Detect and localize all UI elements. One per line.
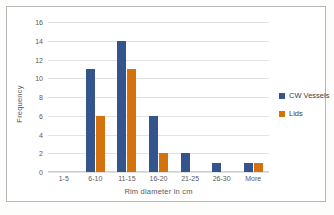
legend-color-swatch bbox=[279, 111, 285, 117]
gridline bbox=[48, 172, 269, 173]
y-axis-tick-label: 6 bbox=[39, 112, 43, 119]
x-axis-tick-label: More bbox=[237, 175, 269, 182]
bar-group bbox=[237, 22, 269, 172]
bar-group bbox=[111, 22, 143, 172]
y-axis-tick-label: 4 bbox=[39, 131, 43, 138]
legend-item[interactable]: Lids bbox=[279, 109, 329, 118]
y-axis-tick-label: 0 bbox=[39, 169, 43, 176]
y-axis-tick-label: 10 bbox=[35, 75, 43, 82]
bar-group bbox=[143, 22, 175, 172]
legend-label: Lids bbox=[289, 109, 303, 118]
bar-group bbox=[206, 22, 238, 172]
bar-group bbox=[48, 22, 80, 172]
legend-item[interactable]: CW Vessels bbox=[279, 91, 329, 100]
bar[interactable] bbox=[127, 69, 136, 172]
y-axis-tick-label: 2 bbox=[39, 150, 43, 157]
bar[interactable] bbox=[254, 163, 263, 172]
bar[interactable] bbox=[117, 41, 126, 172]
x-axis-tick-label: 6-10 bbox=[80, 175, 112, 182]
bar-group bbox=[80, 22, 112, 172]
y-axis-tick-label: 14 bbox=[35, 37, 43, 44]
bar-group bbox=[174, 22, 206, 172]
bar[interactable] bbox=[181, 153, 190, 172]
y-axis-title: Frequency bbox=[15, 85, 24, 122]
scanned-page-background: Frequency 0246810121416 1-56-1011-1516-2… bbox=[0, 0, 334, 215]
bar[interactable] bbox=[212, 163, 221, 172]
y-axis-tick-label: 16 bbox=[35, 19, 43, 26]
bar[interactable] bbox=[159, 153, 168, 172]
x-axis-tick-label: 21-25 bbox=[174, 175, 206, 182]
x-axis-tick-label: 16-20 bbox=[143, 175, 175, 182]
x-axis-tick-label: 1-5 bbox=[48, 175, 80, 182]
y-axis-tick-label: 12 bbox=[35, 56, 43, 63]
x-axis-tick-label: 26-30 bbox=[206, 175, 238, 182]
legend-label: CW Vessels bbox=[289, 91, 329, 100]
chart-container: Frequency 0246810121416 1-56-1011-1516-2… bbox=[6, 6, 326, 202]
bar-groups bbox=[48, 22, 269, 172]
y-axis-tick-label: 8 bbox=[39, 94, 43, 101]
bar[interactable] bbox=[149, 116, 158, 172]
x-axis-tick-label: 11-15 bbox=[111, 175, 143, 182]
bar[interactable] bbox=[244, 163, 253, 172]
x-axis-tick-labels: 1-56-1011-1516-2021-2526-30More bbox=[48, 175, 269, 182]
legend-color-swatch bbox=[279, 93, 285, 99]
x-axis-title: Rim diameter in cm bbox=[48, 187, 269, 196]
bar[interactable] bbox=[96, 116, 105, 172]
chart-legend: CW VesselsLids bbox=[279, 91, 329, 118]
bar[interactable] bbox=[86, 69, 95, 172]
